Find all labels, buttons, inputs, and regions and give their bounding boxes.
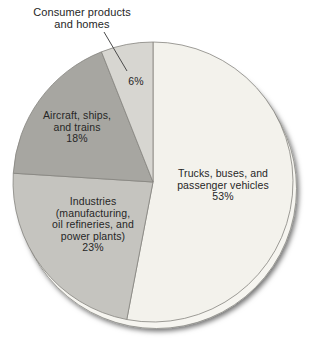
label-aircraft-ships-trains: Aircraft, ships, and trains 18%	[25, 110, 129, 145]
label-industries: Industries (manufacturing, oil refinerie…	[37, 196, 149, 254]
pie-chart-figure: Consumer products and homes 6% Aircraft,…	[0, 0, 318, 341]
label-consumer-products-homes: Consumer products and homes	[20, 7, 144, 30]
label-trucks-buses-passenger-vehicles: Trucks, buses, and passenger vehicles 53…	[164, 168, 282, 203]
value-label-consumer-6pct: 6%	[121, 76, 151, 88]
